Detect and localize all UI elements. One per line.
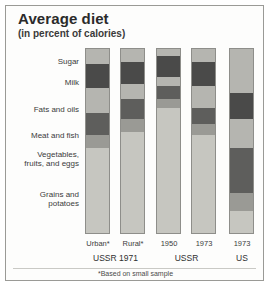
bar-segment bbox=[230, 93, 253, 119]
group-caption-ussr-1971: USSR 1971 bbox=[76, 253, 155, 263]
bar-segment bbox=[121, 62, 144, 84]
bar-segment bbox=[192, 135, 215, 233]
bar-segment bbox=[230, 148, 253, 192]
category-label-sugar: Sugar bbox=[0, 57, 79, 67]
bar-segment bbox=[157, 77, 180, 86]
bar-segment bbox=[157, 86, 180, 99]
bar-ussr-1971-urban[interactable] bbox=[85, 48, 110, 234]
bar-segment bbox=[86, 64, 109, 88]
bar-segment bbox=[157, 49, 180, 56]
footnote: *Based on small sample bbox=[0, 270, 271, 277]
group-caption-us: US bbox=[220, 253, 264, 263]
bar-segment bbox=[121, 119, 144, 132]
bar-us-1973[interactable] bbox=[229, 48, 254, 234]
bar-segment bbox=[86, 88, 109, 114]
bar-segment bbox=[230, 211, 253, 233]
average-diet-chart: Average diet (in percent of calories) Su… bbox=[0, 0, 271, 288]
bar-segment bbox=[192, 86, 215, 108]
bar-segment bbox=[121, 84, 144, 99]
bar-segment bbox=[157, 108, 180, 233]
bar-segment bbox=[192, 108, 215, 125]
footnote-divider bbox=[13, 268, 256, 269]
bar-segment bbox=[192, 124, 215, 135]
bar-ussr-1950[interactable] bbox=[156, 48, 181, 234]
bar-segment bbox=[192, 62, 215, 86]
category-label-milk: Milk bbox=[0, 78, 79, 88]
bar-segment bbox=[86, 49, 109, 64]
bar-segment bbox=[157, 99, 180, 108]
bar-segment bbox=[230, 49, 253, 93]
bar-segment bbox=[192, 49, 215, 62]
category-label-vegetables-line2: fruits, and eggs bbox=[0, 159, 79, 169]
bar-caption-us-1973: 1973 bbox=[220, 239, 264, 248]
bar-segment bbox=[230, 119, 253, 148]
category-label-grains-line2: potatoes bbox=[0, 199, 79, 209]
category-label-meat-and-fish: Meat and fish bbox=[0, 131, 79, 141]
bar-segment bbox=[86, 113, 109, 135]
bar-segment bbox=[157, 56, 180, 76]
plot-area: Sugar Milk Fats and oils Meat and fish V… bbox=[0, 0, 271, 288]
bar-segment bbox=[86, 148, 109, 233]
bar-segment bbox=[121, 49, 144, 62]
group-caption-ussr: USSR bbox=[147, 253, 226, 263]
bar-segment bbox=[86, 135, 109, 148]
bar-segment bbox=[121, 132, 144, 233]
category-label-fats-and-oils: Fats and oils bbox=[0, 105, 79, 115]
bar-segment bbox=[121, 99, 144, 119]
bar-ussr-1971-rural[interactable] bbox=[120, 48, 145, 234]
bar-ussr-1973[interactable] bbox=[191, 48, 216, 234]
bar-segment bbox=[230, 193, 253, 211]
